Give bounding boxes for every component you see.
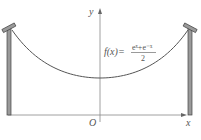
function-numerator: eˣ+e⁻ˣ: [132, 43, 153, 52]
right-pole: [188, 28, 192, 115]
function-denominator: 2: [141, 54, 145, 63]
y-axis-label: y: [88, 6, 94, 17]
catenary-diagram: y O x f(x)= eˣ+e⁻ˣ 2: [0, 0, 201, 140]
x-axis-label: x: [185, 117, 191, 128]
origin-label: O: [89, 117, 96, 128]
left-pole: [7, 28, 11, 115]
y-axis-arrow: [98, 8, 102, 14]
function-lhs: f(x)=: [104, 46, 125, 58]
